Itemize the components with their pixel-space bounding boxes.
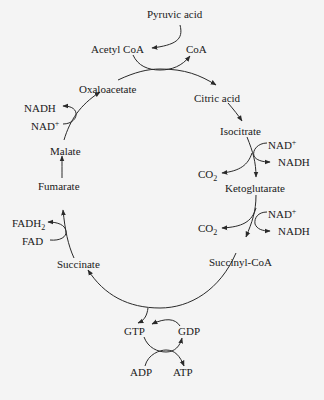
cofactor-fadh2: FADH2 <box>12 217 45 234</box>
node-succinate: Succinate <box>57 258 100 270</box>
arrow-nad-to-nadh-3 <box>63 106 76 124</box>
arrow-acetylcoa-join <box>133 55 160 70</box>
cofactor-nad-plus-malate: NAD+ <box>31 118 59 132</box>
cofactor-nadh-ketoglutarate: NADH <box>278 225 310 237</box>
node-citric-acid: Citric acid <box>194 92 240 104</box>
node-malate: Malate <box>50 145 81 157</box>
nad-text: NAD <box>268 139 292 151</box>
cofactor-co2-isocitrate: CO2 <box>198 168 217 185</box>
node-pyruvic-acid: Pyruvic acid <box>147 8 202 20</box>
arrow-ketoglutarate-to-succinylcoa <box>246 195 256 237</box>
arrow-to-gtp <box>138 308 148 323</box>
plus-superscript: + <box>55 119 60 128</box>
node-gdp: GDP <box>178 325 200 337</box>
node-coa: CoA <box>186 43 207 55</box>
arrow-co2-1 <box>222 153 252 173</box>
arrow-pyruvate-to-acetylcoa <box>152 25 181 48</box>
node-ketoglutarate: Ketoglutarate <box>225 182 285 194</box>
plus-superscript: + <box>292 207 297 216</box>
co-text: CO <box>198 168 213 180</box>
node-oxaloacetate: Oxaloacetate <box>79 83 136 95</box>
node-isocitrate: Isocitrate <box>220 125 261 137</box>
subscript-2: 2 <box>213 228 217 237</box>
plus-superscript: + <box>292 138 297 147</box>
cofactor-nadh-isocitrate: NADH <box>278 156 310 168</box>
cofactor-fad: FAD <box>22 235 43 247</box>
node-atp: ATP <box>173 366 193 378</box>
nad-text: NAD <box>268 208 292 220</box>
subscript-2: 2 <box>213 174 217 183</box>
co-text: CO <box>198 222 213 234</box>
arrow-citrate-to-isocitrate <box>228 103 242 121</box>
cofactor-co2-ketoglutarate: CO2 <box>198 222 217 239</box>
cofactor-nad-plus-isocitrate: NAD+ <box>268 137 296 151</box>
arrow-fad-to-fadh2 <box>48 222 66 240</box>
arrow-gdp-to-gtp <box>152 320 180 326</box>
node-acetyl-coa: Acetyl CoA <box>91 43 144 55</box>
arrow-succinate-to-fumarate <box>63 210 74 258</box>
node-adp: ADP <box>130 366 152 378</box>
cofactor-nadh-malate: NADH <box>24 102 56 114</box>
cofactor-nad-plus-ketoglutarate: NAD+ <box>268 206 296 220</box>
arrow-malate-to-oxaloacetate <box>64 92 100 140</box>
node-succinyl-coa: Succinyl-CoA <box>209 256 272 268</box>
fadh-text: FADH <box>12 217 41 229</box>
subscript-2: 2 <box>41 223 45 232</box>
nad-text: NAD <box>31 120 55 132</box>
arrow-coa-release <box>160 56 190 70</box>
node-gtp: GTP <box>124 325 145 337</box>
cycle-arrows <box>0 0 324 400</box>
node-fumarate: Fumarate <box>38 180 80 192</box>
